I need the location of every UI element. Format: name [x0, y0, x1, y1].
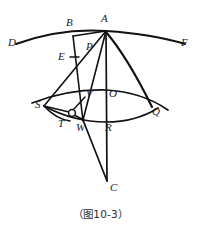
point-label-T: T [58, 118, 64, 129]
point-label-C: C [110, 182, 117, 193]
geometry-canvas [0, 0, 201, 233]
point-label-B: B [66, 17, 73, 28]
small-circle-node [69, 110, 76, 117]
geometry-figure: D B A F P E S V O Q T W R C （图10-3） [0, 0, 201, 233]
point-label-P: P [86, 41, 93, 52]
segment-W-C [83, 120, 107, 181]
point-label-A: A [101, 13, 108, 24]
segment-A-C [106, 31, 107, 181]
point-label-R: R [105, 122, 112, 133]
point-label-F: F [181, 37, 188, 48]
figure-caption: （图10-3） [0, 206, 201, 221]
point-label-Q: Q [152, 106, 160, 117]
point-label-O: O [109, 88, 117, 99]
point-label-E: E [58, 51, 65, 62]
point-label-V: V [86, 88, 93, 99]
point-label-D: D [8, 37, 16, 48]
segment-circle-V [73, 97, 85, 110]
point-label-S: S [35, 99, 41, 110]
point-label-W: W [76, 122, 85, 133]
